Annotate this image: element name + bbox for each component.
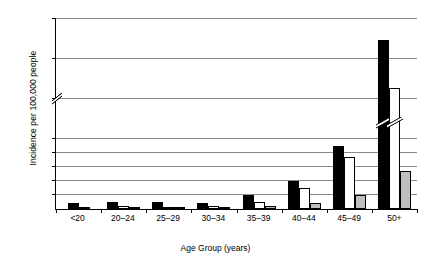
bar-white-2024 (118, 206, 129, 209)
bar-grey-50+ (400, 171, 411, 209)
x-tick-label-4044: 40–44 (281, 213, 326, 223)
bar-white-2529 (163, 207, 174, 209)
bar-black-4044 (288, 181, 299, 209)
x-tick-label-2024: 20–24 (100, 213, 145, 223)
x-tick-label-3539: 35–39 (236, 213, 281, 223)
bar-white-4549 (344, 157, 355, 209)
bar-black-2529 (152, 202, 163, 209)
plot-area: 102030405075100125 (55, 19, 417, 210)
bar-black-2024 (107, 202, 118, 209)
bar-groups (56, 19, 417, 209)
bar-group-20 (56, 19, 101, 209)
bar-group-4549 (327, 19, 372, 209)
bar-white-50+ (389, 88, 400, 209)
bar-black-50+ (378, 40, 389, 209)
bar-grey-3539 (265, 206, 276, 209)
bar-grey-4549 (355, 195, 366, 209)
bar-break-icon (387, 117, 404, 130)
bar-group-50+ (372, 19, 417, 209)
bar-white-4044 (299, 188, 310, 209)
bar-white-20 (79, 207, 90, 209)
x-tick-label-2529: 25–29 (146, 213, 191, 223)
bar-grey-4044 (310, 203, 321, 209)
x-tick-label-4549: 45–49 (327, 213, 372, 223)
bar-black-20 (68, 203, 79, 209)
bar-black-3034 (197, 203, 208, 209)
bar-group-3034 (191, 19, 236, 209)
bar-white-3034 (208, 206, 219, 209)
y-axis-title: Incidence per 100,000 people (28, 23, 38, 193)
bar-grey-2024 (129, 207, 140, 209)
bar-black-3539 (243, 195, 254, 209)
x-tick-label-20: <20 (55, 213, 100, 223)
x-axis-title: Age Group (years) (0, 243, 431, 253)
bar-group-4044 (282, 19, 327, 209)
x-tick-label-50+: 50+ (372, 213, 417, 223)
bar-grey-2529 (174, 207, 185, 209)
bar-chart: Incidence per 100,000 people Age Group (… (0, 0, 431, 262)
x-axis-tick-labels: <2020–2425–2930–3435–3940–4445–4950+ (55, 213, 417, 223)
bar-group-2024 (101, 19, 146, 209)
x-tick-mark-8 (417, 209, 418, 213)
bar-group-2529 (146, 19, 191, 209)
bar-black-4549 (333, 146, 344, 209)
bar-grey-3034 (219, 207, 230, 209)
bar-group-3539 (237, 19, 282, 209)
bar-white-3539 (254, 202, 265, 209)
x-tick-label-3034: 30–34 (191, 213, 236, 223)
